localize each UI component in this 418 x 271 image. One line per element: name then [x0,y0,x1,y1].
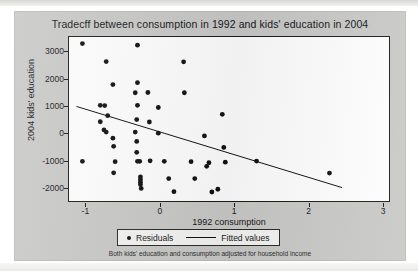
legend-label-fitted-values: Fitted values [221,233,269,243]
x-axis-tick-mark [160,203,161,207]
scatter-point [134,117,139,122]
scatter-point [189,159,194,164]
chart-legend: Residuals Fitted values [117,229,280,246]
scatter-point [135,43,140,48]
scatter-point [209,190,214,195]
scatter-plot-svg [69,37,389,201]
scatter-point [105,113,110,118]
x-axis-tick-mark [234,203,235,207]
scatter-point [139,186,144,191]
scatter-point [202,134,207,139]
scatter-point [147,120,152,125]
scatter-point [104,130,109,135]
x-axis-tick-mark [309,203,310,207]
scatter-point [111,170,116,175]
scatter-point [220,112,225,117]
scatter-point [172,189,177,194]
y-axis-tick-marks [14,36,68,202]
scatter-point [102,103,107,108]
scatter-point [223,160,228,165]
scatter-point [134,139,139,144]
scatter-point [156,131,161,136]
plot-area [68,36,390,202]
scatter-point [221,145,226,150]
chart-footnote: Both kids' education and consumption adj… [14,250,406,257]
scatter-point [134,150,139,155]
scatter-point [133,130,138,135]
scatter-point [207,160,212,165]
x-axis-tick-label: 3 [371,207,395,216]
legend-entry-fitted-values: Fitted values [186,233,269,243]
legend-entry-residuals: Residuals [127,233,173,243]
scatter-point [104,59,109,64]
legend-line-icon [186,237,216,238]
scan-edge-top [0,0,418,6]
scatter-point [111,136,116,141]
scatter-point [135,80,140,85]
scatter-point [181,59,186,64]
scatter-point [215,187,220,192]
scatter-point [133,90,138,95]
scatter-point [111,82,116,87]
x-axis-tick-label: 1 [222,207,246,216]
residual-points-group [80,41,332,194]
scatter-point [80,159,85,164]
legend-dot-icon [127,236,131,240]
scan-edge-bottom [0,263,418,271]
chart-title: Tradecff between consumption in 1992 and… [14,18,406,30]
scatter-point [192,176,197,181]
fitted-values-line-segment [76,106,342,187]
scatter-point [137,159,142,164]
scatter-point [162,159,167,164]
x-axis-tick-label: -1 [73,207,97,216]
x-axis-tick-label: 0 [148,207,172,216]
scatter-point [145,90,150,95]
x-axis-tick-mark [85,203,86,207]
scatter-point [156,105,161,110]
scatter-point [80,41,85,46]
scatter-point [98,119,103,124]
scatter-point [254,159,259,164]
scatter-point [98,103,103,108]
figure-panel: Tradecff between consumption in 1992 and… [14,11,406,261]
fitted-values-line [76,106,342,187]
scatter-point [135,103,140,108]
scatter-point [148,158,153,163]
scatter-point [111,144,116,149]
scatter-point [113,159,118,164]
x-axis-tick-label: 2 [297,207,321,216]
y-axis-title: 2004 kids' education [26,45,36,155]
scatter-point [327,171,332,176]
scatter-point [182,90,187,95]
legend-label-residuals: Residuals [136,233,173,243]
scanned-page: Tradecff between consumption in 1992 and… [0,0,418,271]
x-axis-tick-mark [383,203,384,207]
x-axis-title: 1992 consumption [68,217,390,227]
scatter-point [166,176,171,181]
